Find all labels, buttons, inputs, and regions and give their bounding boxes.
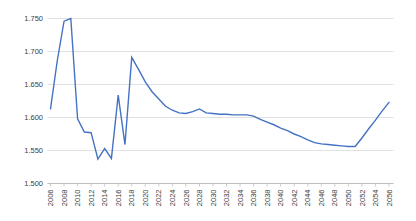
x-tick-label: 2048 [330, 190, 339, 207]
x-tick-label: 2020 [141, 190, 150, 207]
series-line [51, 19, 390, 160]
x-tick-label: 2046 [317, 190, 326, 207]
x-tick-label: 2022 [154, 190, 163, 207]
y-tick-label: 1.700 [24, 47, 43, 56]
x-tick-label: 2018 [127, 190, 136, 207]
y-tick-label: 1.600 [24, 113, 43, 122]
y-tick-label: 1.750 [24, 14, 43, 23]
y-tick-label: 1.500 [24, 179, 43, 188]
x-tick-label: 2030 [209, 190, 218, 207]
x-tick-label: 2044 [303, 190, 312, 207]
x-tick-label: 2056 [385, 190, 394, 207]
line-chart-svg: 1.7501.7001.6501.6001.5501.5002006200820… [0, 0, 416, 221]
x-tick-label: 2038 [263, 190, 272, 207]
x-tick-label: 2014 [100, 190, 109, 207]
y-tick-label: 1.550 [24, 146, 43, 155]
x-tick-label: 2036 [249, 190, 258, 207]
x-tick-label: 2006 [46, 190, 55, 207]
x-tick-label: 2008 [60, 190, 69, 207]
y-axis-labels: 1.7501.7001.6501.6001.5501.500 [24, 14, 43, 188]
gridlines [48, 19, 394, 184]
x-tick-label: 2024 [168, 190, 177, 207]
x-tick-label: 2034 [236, 190, 245, 207]
line-chart-figure: 1.7501.7001.6501.6001.5501.5002006200820… [0, 0, 416, 221]
x-tick-label: 2052 [358, 190, 367, 207]
x-tick-label: 2026 [182, 190, 191, 207]
x-tick-label: 2010 [73, 190, 82, 207]
x-tick-label: 2042 [290, 190, 299, 207]
x-tick-label: 2050 [344, 190, 353, 207]
x-tick-label: 2012 [87, 190, 96, 207]
x-tick-label: 2016 [114, 190, 123, 207]
x-tick-label: 2040 [276, 190, 285, 207]
x-tick-label: 2054 [371, 190, 380, 207]
x-tick-label: 2032 [222, 190, 231, 207]
y-tick-label: 1.650 [24, 80, 43, 89]
x-axis-labels: 2006200820102012201420162018202020222024… [46, 184, 394, 207]
x-tick-label: 2028 [195, 190, 204, 207]
